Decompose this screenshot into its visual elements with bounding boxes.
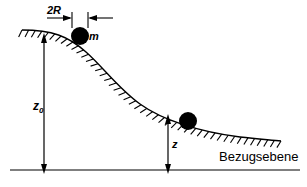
label-height-initial-subscript: 0 [39,106,43,115]
label-mass: m [89,31,99,42]
label-height-current: z [172,139,178,150]
label-reference-plane: Bezugsebene [219,150,299,163]
height-z-arrow [165,114,171,174]
label-diameter: 2R [47,5,61,16]
ball-top [71,27,89,45]
diagram-canvas: 2R m z0 z Bezugsebene [0,0,307,187]
slope-hatching [19,30,281,148]
label-height-initial: z0 [33,100,43,115]
ball-lower [179,112,197,130]
slope-curve [22,30,281,141]
